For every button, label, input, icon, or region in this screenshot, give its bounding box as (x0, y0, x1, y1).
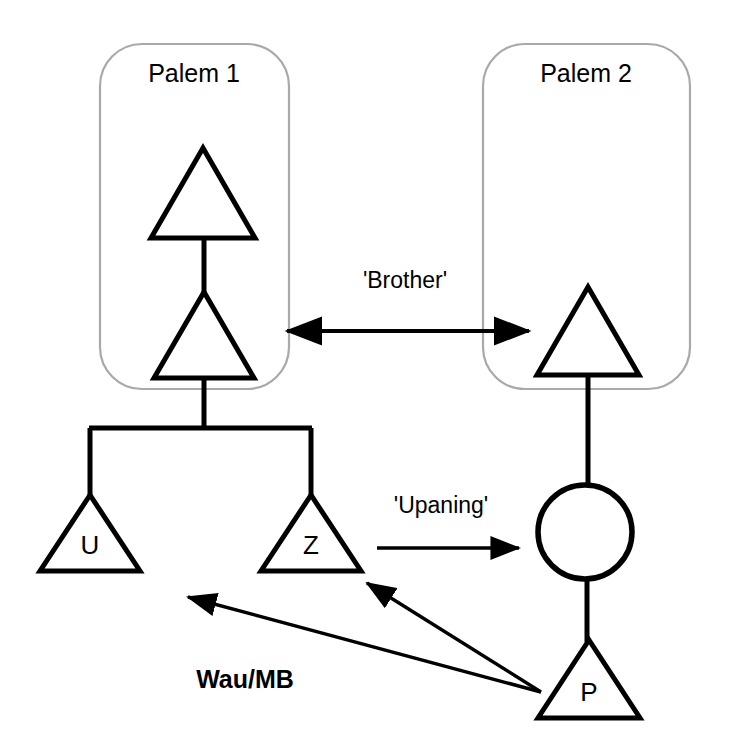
descent-line-group (89, 238, 588, 642)
relation-arrow-wau-mb-relation-to-z (367, 583, 541, 692)
kinship-diagram: UZP Palem 1Palem 2'Brother''Upaning'Wau/… (0, 0, 729, 748)
kin-symbol-label-male-u: U (81, 530, 100, 560)
kinship-diagram-canvas: UZP Palem 1Palem 2'Brother''Upaning'Wau/… (0, 0, 729, 748)
relation-label-wau-mb-relation-to-u: Wau/MB (196, 665, 294, 693)
kin-symbol-female-wife (538, 485, 632, 579)
kin-symbol-label-male-p: P (580, 677, 597, 707)
kin-symbol-label-male-z: Z (303, 530, 319, 560)
kin-symbol-male-p1-grandfather (151, 148, 255, 238)
group-label-palem-1: Palem 1 (148, 59, 240, 87)
kin-symbol-male-p2-brother (537, 287, 639, 375)
kin-symbol-male-p1-father (154, 292, 254, 378)
relation-label-brother-relation: 'Brother' (363, 267, 447, 293)
group-label-palem-2: Palem 2 (540, 59, 632, 87)
kin-symbol-group: UZP (40, 148, 640, 718)
relation-label-upaning-relation: 'Upaning' (394, 492, 488, 518)
